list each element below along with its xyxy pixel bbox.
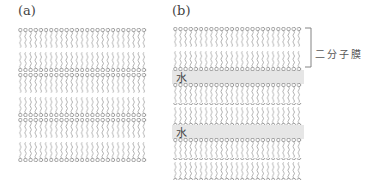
water-label-2: 水 xyxy=(176,124,187,140)
bilayer-label: 二分子膜 xyxy=(315,46,363,61)
panel-b-bilayers xyxy=(173,27,302,180)
water-layer-2 xyxy=(172,125,304,139)
lipid-diagram xyxy=(0,0,369,185)
water-label-1: 水 xyxy=(176,69,187,85)
panel-a-bilayers xyxy=(18,28,147,162)
water-layer-1 xyxy=(172,70,304,84)
bilayer-bracket xyxy=(305,28,311,67)
